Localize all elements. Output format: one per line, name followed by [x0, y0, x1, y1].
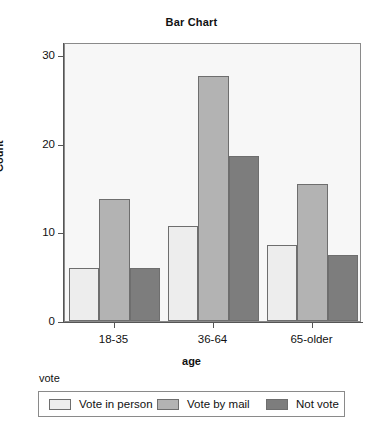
bar-18-35-vote-by-mail — [99, 199, 130, 321]
bar-36-64-vote-in-person — [168, 226, 199, 321]
y-tick-label: 0 — [15, 316, 55, 328]
legend-label: Not vote — [296, 398, 339, 410]
y-tick-mark — [58, 56, 63, 57]
legend-entry-vote-by-mail[interactable]: Vote by mail — [157, 392, 250, 416]
bar-65-older-vote-in-person — [267, 245, 298, 321]
x-tick-label-65-older: 65-older — [267, 333, 357, 345]
x-tick-mark — [213, 323, 214, 328]
plot-area — [64, 43, 361, 322]
bar-chart-figure: Bar Chart 0102030 Count 18-3536-6465-old… — [0, 0, 383, 437]
y-tick-mark — [58, 145, 63, 146]
legend-entry-vote-in-person[interactable]: Vote in person — [49, 392, 153, 416]
legend-swatch-icon — [266, 399, 288, 410]
y-axis-line — [63, 43, 64, 323]
legend-swatch-icon — [157, 399, 179, 410]
bar-65-older-vote-by-mail — [297, 184, 328, 321]
bars-layer — [65, 44, 360, 321]
y-tick-label: 10 — [15, 227, 55, 239]
bar-18-35-vote-in-person — [69, 268, 100, 321]
bar-65-older-not-vote — [328, 255, 359, 321]
legend-entry-not-vote[interactable]: Not vote — [266, 392, 339, 416]
x-tick-mark — [312, 323, 313, 328]
bar-36-64-vote-by-mail — [198, 76, 229, 321]
x-tick-label-18-35: 18-35 — [69, 333, 159, 345]
chart-title: Bar Chart — [0, 16, 383, 28]
x-tick-mark — [114, 323, 115, 328]
y-tick-label: 30 — [15, 50, 55, 62]
legend-title: vote — [39, 372, 60, 384]
x-tick-label-36-64: 36-64 — [168, 333, 258, 345]
y-tick-mark — [58, 233, 63, 234]
legend-label: Vote by mail — [187, 398, 250, 410]
y-axis-title: Count — [0, 140, 5, 172]
x-axis-line — [58, 322, 363, 323]
bar-18-35-not-vote — [130, 268, 161, 321]
legend-box: Vote in personVote by mailNot vote — [38, 391, 345, 417]
legend-swatch-icon — [49, 399, 71, 410]
y-tick-label: 20 — [15, 139, 55, 151]
x-axis-title: age — [0, 355, 383, 367]
bar-36-64-not-vote — [229, 156, 260, 321]
legend-label: Vote in person — [79, 398, 153, 410]
